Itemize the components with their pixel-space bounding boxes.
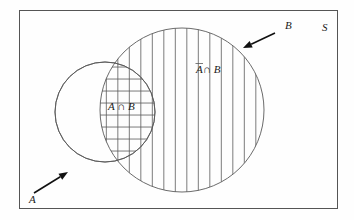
label-not-a-intersect-b: A ∩ B [195, 63, 221, 75]
universe-rectangle [20, 11, 338, 209]
label-set-b: B [285, 19, 292, 31]
label-universe-s: S [322, 21, 328, 33]
annotation-arrow-b: B [243, 19, 292, 48]
label-a-intersect-b: A ∩ B [107, 100, 135, 112]
arrow-b-shaft [251, 33, 275, 44]
venn-diagram-page: A ∩ B A ∩ B S A B [0, 0, 354, 220]
label-set-a: A [28, 193, 36, 205]
label-not-a-letter: A [195, 63, 203, 75]
arrow-a-shaft [34, 177, 60, 193]
arrow-a-head-icon [58, 172, 68, 180]
venn-diagram-canvas: A ∩ B A ∩ B S A B [0, 0, 354, 220]
label-intersect-b-suffix: ∩ B [203, 63, 221, 75]
set-a-circle [55, 62, 155, 162]
set-a-circle-overlay [55, 62, 155, 162]
annotation-arrow-a: A [28, 172, 68, 205]
arrow-b-head-icon [243, 41, 253, 48]
